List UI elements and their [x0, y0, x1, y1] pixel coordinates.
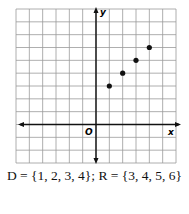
data-point [107, 83, 112, 88]
data-points [107, 45, 152, 89]
origin-label: O [85, 127, 93, 137]
y-axis-label: y [100, 7, 107, 17]
domain-range-caption: D = {1, 2, 3, 4}; R = {3, 4, 5, 6} [0, 168, 189, 184]
coordinate-plane: x y O [0, 0, 189, 168]
data-point [120, 71, 125, 76]
x-axis-label: x [167, 127, 175, 137]
data-point [133, 58, 138, 63]
data-point [147, 45, 152, 50]
